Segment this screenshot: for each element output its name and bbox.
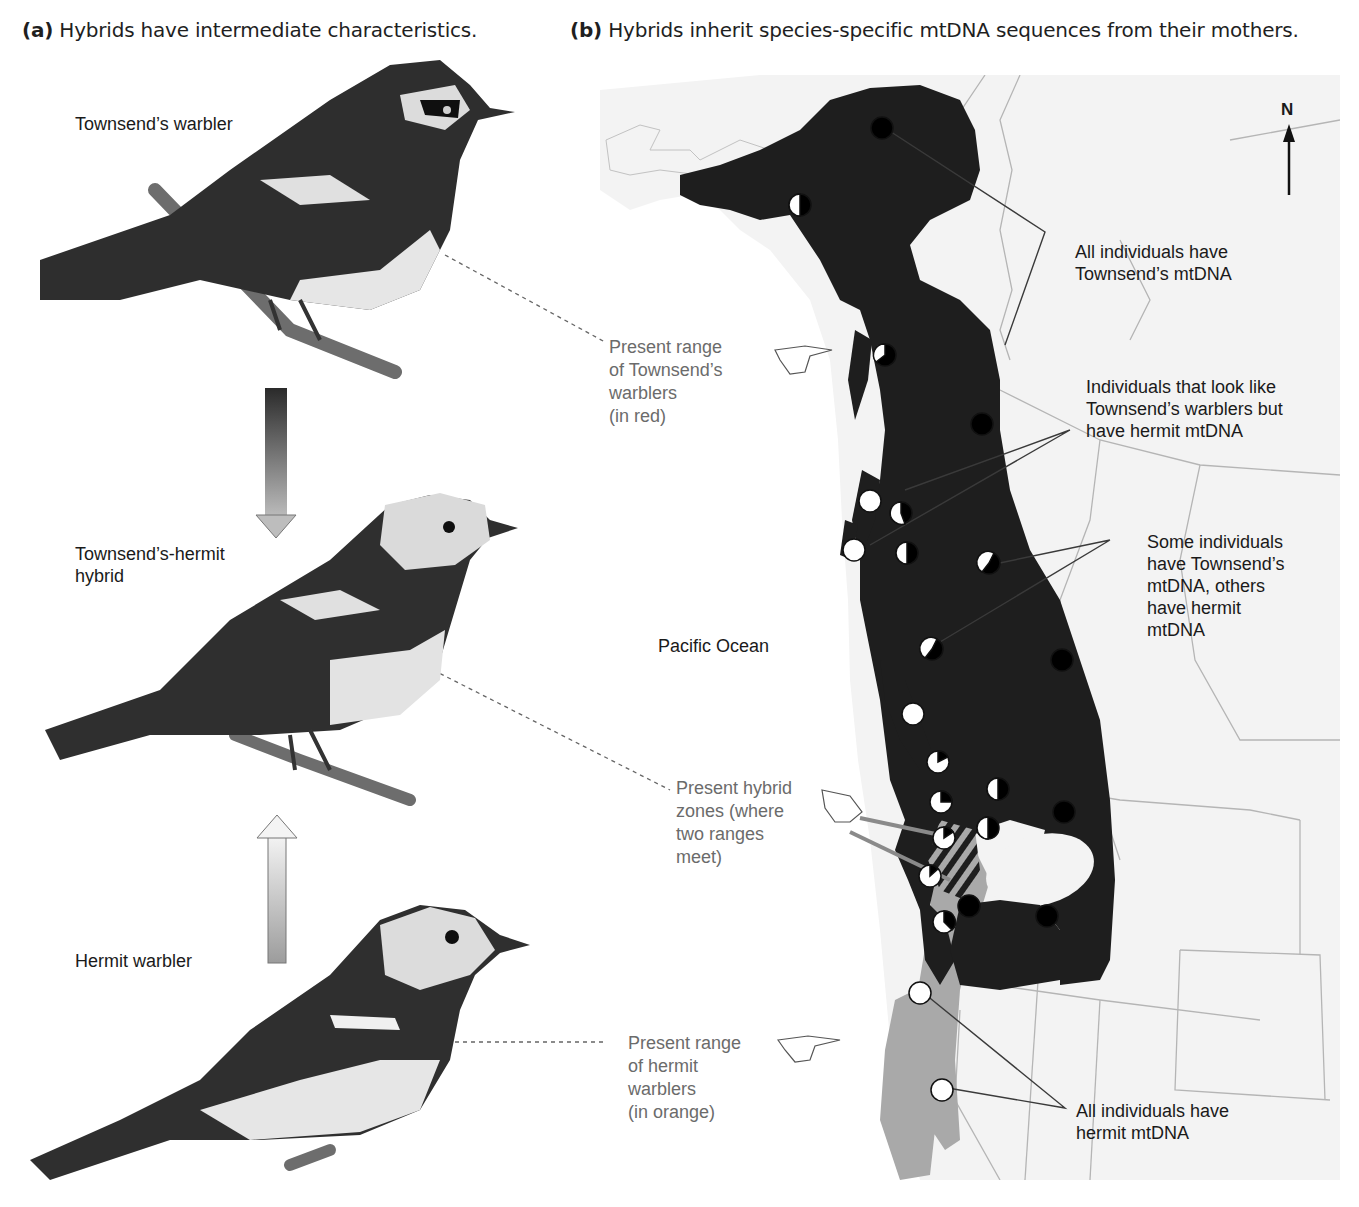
callout-all-hermit: All individuals have hermit mtDNA (1076, 1100, 1229, 1144)
label-hybrid: Townsend’s-hermit hybrid (75, 543, 225, 587)
callout-mixed: Some individuals have Townsend’s mtDNA, … (1147, 531, 1284, 641)
callout-look-townsend: Individuals that look like Townsend’s wa… (1086, 376, 1283, 442)
hybrid-warbler-illustration (45, 493, 518, 800)
label-townsend-warbler: Townsend’s warbler (75, 113, 233, 135)
label-hermit-warbler: Hermit warbler (75, 950, 192, 972)
label-pacific-ocean: Pacific Ocean (658, 635, 769, 657)
callout-all-townsend: All individuals have Townsend’s mtDNA (1075, 241, 1232, 285)
label-hermit-range: Present range of hermit warblers (in ora… (628, 1032, 741, 1124)
down-arrow-icon (256, 388, 296, 538)
label-hybrid-zones: Present hybrid zones (where two ranges m… (676, 777, 792, 869)
compass-n-label: N (1281, 100, 1293, 120)
up-arrow-icon (257, 815, 297, 963)
label-townsend-range: Present range of Townsend’s warblers (in… (609, 336, 722, 428)
townsend-warbler-illustration (40, 60, 515, 372)
